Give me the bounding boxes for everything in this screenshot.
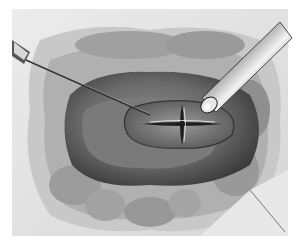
illustration-canvas (0, 0, 298, 246)
medical-illustration (0, 0, 298, 246)
